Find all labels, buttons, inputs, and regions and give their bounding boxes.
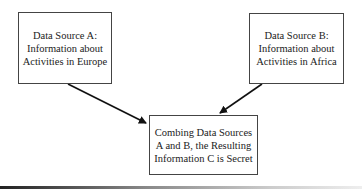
data-source-a-box: Data Source A: Information about Activit… <box>18 12 112 84</box>
box-c-line-3: Information C is Secret <box>154 152 252 165</box>
box-b-line-2: Information about <box>256 42 336 55</box>
box-c-line-1: Combing Data Sources <box>154 126 252 139</box>
box-b-line-1: Data Source B: <box>256 29 336 42</box>
data-source-b-box: Data Source B: Information about Activit… <box>249 13 344 84</box>
bottom-divider <box>0 186 362 189</box>
arrow-b-to-c <box>220 84 262 113</box>
box-a-line-2: Information about <box>23 42 108 55</box>
combined-information-c-box: Combing Data Sources A and B, the Result… <box>149 115 258 175</box>
box-c-line-2: A and B, the Resulting <box>154 139 252 152</box>
arrow-a-to-c <box>68 84 146 123</box>
box-a-line-3: Activities in Europe <box>23 55 108 68</box>
box-a-line-1: Data Source A: <box>23 29 108 42</box>
box-b-line-3: Activities in Africa <box>256 55 336 68</box>
